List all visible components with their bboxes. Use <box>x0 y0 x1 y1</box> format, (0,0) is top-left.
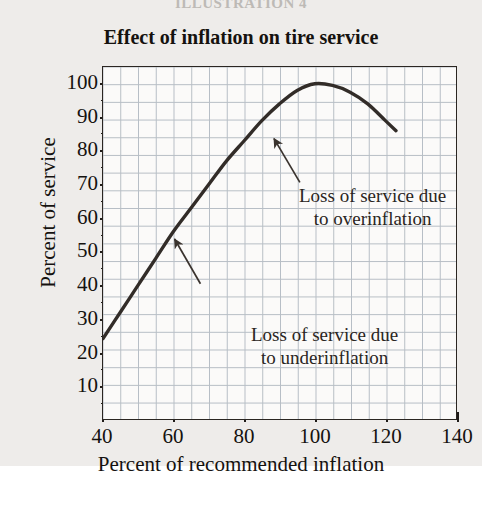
y-axis-title: Percent of service <box>36 103 61 323</box>
annotation-underinflation-line2: to underinflation <box>261 347 388 368</box>
y-tick-label: 100 <box>44 72 98 93</box>
x-axis-title: Percent of recommended inflation <box>0 452 482 477</box>
y-tick-label: 10 <box>44 375 98 396</box>
annotation-underinflation-line1: Loss of service due <box>251 324 398 345</box>
annotation-underinflation: Loss of service due to underinflation <box>251 323 398 369</box>
annotation-overinflation-line2: to overinflation <box>314 208 432 229</box>
x-tick-major <box>457 412 459 422</box>
y-tick-label: 20 <box>44 342 98 363</box>
annotation-overinflation: Loss of service due to overinflation <box>299 184 446 230</box>
plot-area: Loss of service due to overinflation Los… <box>102 66 457 420</box>
underinflation-arrow <box>175 239 201 284</box>
overinflation-arrow <box>274 139 300 183</box>
illustration-caption: ILLUSTRATION 4 <box>0 0 482 10</box>
figure-panel: ILLUSTRATION 4 Effect of inflation on ti… <box>0 0 482 466</box>
x-tick-label: 40 <box>72 426 132 447</box>
annotation-overinflation-line1: Loss of service due <box>299 185 446 206</box>
x-tick-label: 80 <box>214 426 274 447</box>
chart-title: Effect of inflation on tire service <box>0 26 482 49</box>
x-tick-label: 60 <box>143 426 203 447</box>
x-tick-label: 100 <box>285 426 345 447</box>
x-tick-label: 140 <box>427 426 482 447</box>
x-tick-label: 120 <box>356 426 416 447</box>
